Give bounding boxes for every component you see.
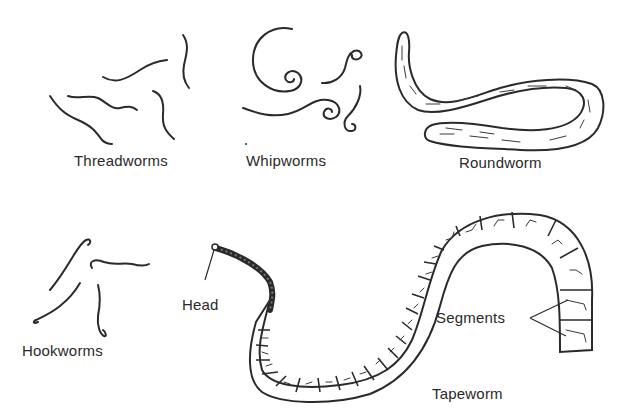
tapeworm-illustration [205,212,592,402]
threadworms-label: Threadworms [74,152,168,169]
roundworm-illustration [396,32,604,150]
hookworms-label: Hookworms [22,342,103,359]
hookworms-illustration [34,239,149,336]
threadworms-illustration [50,35,189,144]
segments-label: Segments [436,309,505,326]
whipworms-label: Whipworms [246,152,326,169]
whipworms-illustration [243,28,362,145]
tapeworm-label: Tapeworm [432,385,503,402]
roundworm-label: Roundworm [459,154,542,171]
head-label: Head [182,296,219,313]
worm-diagram: Threadworms Whipworms Roundworm Hookworm… [0,0,632,418]
